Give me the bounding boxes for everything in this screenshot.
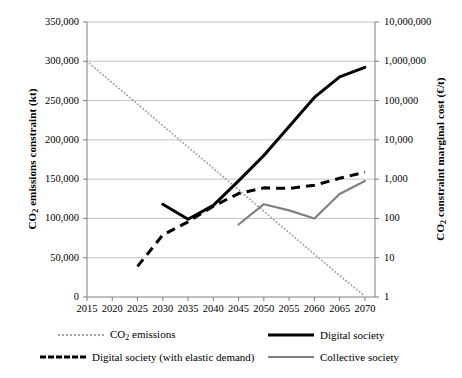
legend-item: CO2 emissions [58, 328, 175, 342]
legend-swatch [40, 352, 86, 362]
y-tick-label-left: 300,000 [45, 56, 79, 66]
y-tick-marks-right [375, 22, 379, 297]
y-tick-label-right: 1,000,000 [384, 56, 426, 66]
series-line-1 [163, 67, 365, 219]
plot-frame [87, 22, 375, 297]
y-tick-label-right: 1 [384, 292, 389, 302]
chart-figure: CO2 emissions constraint (kt) CO2 constr… [0, 0, 462, 378]
legend-swatch [58, 330, 104, 340]
legend-item: Digital society (with elastic demand) [40, 350, 255, 363]
y-tick-label-right: 100 [384, 213, 400, 223]
y-tick-label-right: 10,000,000 [384, 17, 431, 27]
legend-item: Digital society [268, 328, 384, 341]
legend-swatch [268, 330, 314, 340]
y-tick-marks-left [83, 22, 87, 297]
legend-label: Digital society (with elastic demand) [92, 351, 255, 363]
y-tick-label-right: 1,000 [384, 174, 408, 184]
series-line-3 [239, 181, 365, 225]
x-tick-label: 2070 [348, 304, 382, 314]
y-tick-label-right: 10,000 [384, 135, 413, 145]
y-tick-label-left: 50,000 [50, 253, 79, 263]
y-tick-label-left: 0 [74, 292, 79, 302]
y-tick-label-left: 250,000 [45, 96, 79, 106]
y-tick-label-left: 200,000 [45, 135, 79, 145]
y-tick-label-right: 10 [384, 253, 395, 263]
legend-label: Digital society [320, 329, 384, 341]
legend-item: Collective society [268, 350, 399, 363]
y-axis-title-right: CO2 constraint marginal cost (€/t) [434, 44, 448, 274]
legend-label: Collective society [320, 351, 399, 363]
chart-legend: CO2 emissionsDigital societyDigital soci… [0, 326, 462, 374]
y-tick-label-left: 350,000 [45, 17, 79, 27]
x-tick-marks [87, 297, 365, 301]
y-tick-label-right: 100,000 [384, 96, 418, 106]
legend-swatch [268, 352, 314, 362]
legend-label: CO2 emissions [110, 328, 175, 342]
y-tick-label-left: 100,000 [45, 213, 79, 223]
y-axis-title-left: CO2 emissions constraint (kt) [26, 44, 40, 274]
series-line-2 [138, 172, 365, 266]
gridlines [87, 22, 375, 258]
y-tick-label-left: 150,000 [45, 174, 79, 184]
